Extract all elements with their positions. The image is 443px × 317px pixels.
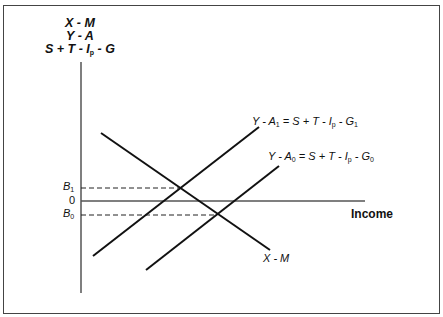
x-axis-label: Income — [351, 207, 393, 221]
ya0-lhs: Y - A — [268, 150, 292, 162]
xm-label: X - M — [263, 252, 289, 264]
tick-b1: B1 — [63, 180, 74, 193]
ya0-eq: = S + T - I — [296, 150, 348, 162]
ya1-rhs-sub: 1 — [354, 121, 358, 128]
ya1-label: Y - A1 = S + T - Ip - G1 — [252, 115, 358, 128]
y-axis-label: X - M Y - A S + T - Ip - G — [20, 17, 140, 56]
ya1-lhs: Y - A — [252, 115, 276, 127]
y-label-line3-post: - G — [94, 42, 115, 56]
ya1-rhs: - G — [336, 115, 354, 127]
xm-curve — [101, 133, 270, 250]
ya0-label: Y - A0 = S + T - Ip - G0 — [268, 150, 374, 163]
tick-zero: 0 — [69, 194, 75, 206]
ya1-eq: = S + T - I — [280, 115, 332, 127]
y-label-line3: S + T - Ip - G — [20, 43, 140, 56]
ya0-rhs-sub: 0 — [370, 156, 374, 163]
ya0-curve — [146, 166, 279, 270]
ya1-curve — [93, 127, 259, 256]
tick-b1-sub: 1 — [70, 186, 74, 193]
tick-b0-sub: 0 — [70, 213, 74, 220]
tick-b0: B0 — [63, 207, 74, 220]
y-label-line3-pre: S + T - I — [45, 42, 90, 56]
ya0-rhs: - G — [352, 150, 370, 162]
